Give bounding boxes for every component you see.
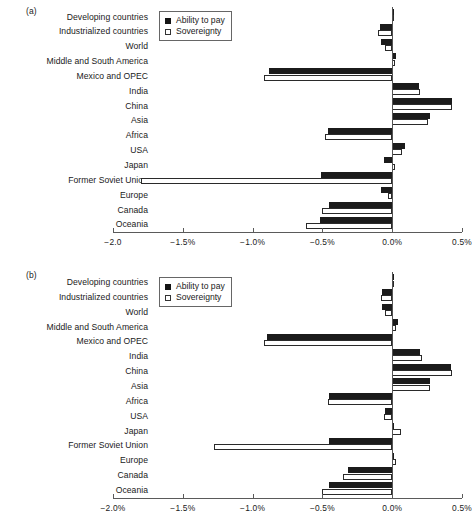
bar-sovereignty — [214, 444, 393, 450]
legend-item: Sovereignty — [165, 292, 225, 303]
bar-sovereignty — [392, 370, 452, 376]
bar-sovereignty — [392, 355, 421, 361]
bar-ability-to-pay — [392, 83, 419, 89]
bar-ability-to-pay — [320, 217, 393, 223]
legend-item: Ability to pay — [165, 15, 225, 26]
bar-ability-to-pay — [329, 393, 392, 399]
bar-sovereignty — [378, 30, 392, 36]
bar-ability-to-pay — [382, 304, 392, 310]
axis-tick-label: −2.0 — [104, 237, 121, 247]
bar-ability-to-pay — [381, 39, 392, 45]
axis-tick-label: 0.0% — [382, 237, 402, 247]
bar-sovereignty — [264, 75, 392, 81]
bar-sovereignty — [392, 104, 452, 110]
bar-ability-to-pay — [384, 157, 392, 163]
chart-panel-b: (b) Developing countriesIndustrialized c… — [0, 264, 473, 528]
bar-ability-to-pay — [385, 408, 392, 414]
axis-tick — [253, 494, 254, 498]
bar-sovereignty — [306, 223, 393, 229]
plot-b: Developing countriesIndustrialized count… — [0, 264, 473, 528]
axis-tick — [253, 228, 254, 232]
bar-sovereignty — [328, 399, 392, 405]
axis-tick — [183, 228, 184, 232]
legend-label: Sovereignty — [176, 27, 221, 36]
axis-tick-label: −2.0% — [101, 503, 126, 513]
legend-a: Ability to paySovereignty — [159, 11, 232, 41]
axis-tick — [113, 494, 114, 498]
bar-sovereignty — [392, 119, 428, 125]
bar-ability-to-pay — [329, 482, 392, 488]
bar-ability-to-pay — [392, 349, 420, 355]
axis-tick-label: 0.5% — [452, 237, 472, 247]
bar-ability-to-pay — [329, 202, 392, 208]
axis-tick — [392, 494, 393, 498]
legend-swatch-icon — [165, 18, 171, 24]
axis-tick-label: −1.5% — [170, 237, 195, 247]
bar-sovereignty — [264, 340, 392, 346]
bar-sovereignty — [322, 208, 392, 214]
legend-swatch-icon — [165, 29, 171, 35]
bar-ability-to-pay — [382, 289, 392, 295]
chart-panel-a: (a) Developing countriesIndustrialized c… — [0, 0, 473, 264]
bars-area-a — [0, 0, 473, 264]
axis-tick-label: −0.5% — [310, 503, 335, 513]
bar-sovereignty — [392, 385, 430, 391]
bar-ability-to-pay — [321, 172, 392, 178]
bar-sovereignty — [392, 89, 420, 95]
axis-tick-label: −0.5% — [310, 237, 335, 247]
bars-area-b — [0, 264, 473, 528]
bar-sovereignty — [322, 489, 392, 495]
axis-tick — [462, 228, 463, 232]
bar-sovereignty — [392, 429, 400, 435]
bar-ability-to-pay — [328, 128, 392, 134]
zero-reference-line — [392, 7, 393, 233]
bar-ability-to-pay — [392, 143, 405, 149]
legend-swatch-icon — [165, 295, 171, 301]
bar-sovereignty — [343, 474, 392, 480]
axis-tick — [462, 494, 463, 498]
axis-tick — [113, 228, 114, 232]
bar-ability-to-pay — [267, 334, 393, 340]
bar-ability-to-pay — [392, 98, 452, 104]
bar-ability-to-pay — [392, 378, 430, 384]
bar-sovereignty — [392, 149, 402, 155]
bar-ability-to-pay — [380, 24, 393, 30]
legend-item: Ability to pay — [165, 281, 225, 292]
bar-ability-to-pay — [269, 68, 392, 74]
bar-sovereignty — [325, 134, 392, 140]
legend-label: Sovereignty — [176, 293, 221, 302]
axis-tick-label: −1.0% — [240, 503, 265, 513]
axis-tick-label: −1.0% — [240, 237, 265, 247]
bar-ability-to-pay — [329, 438, 392, 444]
zero-reference-line — [392, 272, 393, 498]
legend-label: Ability to pay — [176, 282, 225, 291]
legend-b: Ability to paySovereignty — [159, 277, 232, 307]
bar-ability-to-pay — [348, 467, 393, 473]
plot-a: Developing countriesIndustrialized count… — [0, 0, 473, 264]
legend-label: Ability to pay — [176, 16, 225, 25]
axis-baseline — [113, 498, 462, 499]
axis-tick-label: 0.0% — [382, 503, 402, 513]
axis-tick — [322, 494, 323, 498]
bar-ability-to-pay — [381, 187, 392, 193]
axis-tick — [183, 494, 184, 498]
legend-item: Sovereignty — [165, 26, 225, 37]
legend-swatch-icon — [165, 284, 171, 290]
bar-sovereignty — [381, 295, 392, 301]
bar-ability-to-pay — [392, 364, 451, 370]
bar-sovereignty — [141, 178, 392, 184]
axis-tick-label: −1.5% — [170, 503, 195, 513]
axis-tick — [322, 228, 323, 232]
axis-tick-label: 0.5% — [452, 503, 472, 513]
axis-tick — [392, 228, 393, 232]
bar-sovereignty — [385, 45, 392, 51]
bar-sovereignty — [384, 414, 392, 420]
bar-ability-to-pay — [392, 113, 430, 119]
axis-baseline — [113, 232, 462, 233]
bar-sovereignty — [385, 310, 392, 316]
